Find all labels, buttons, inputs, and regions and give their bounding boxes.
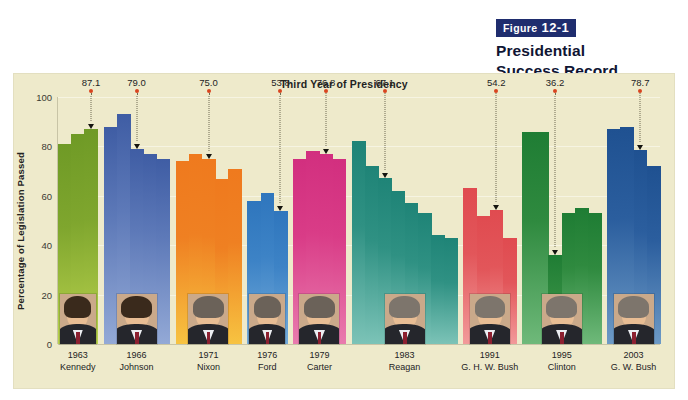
- callout-value: 36.2: [546, 77, 565, 88]
- callout-value: 54.2: [487, 77, 506, 88]
- figure-number-badge: Figure 12-1: [496, 19, 576, 37]
- callout-value: 79.0: [127, 77, 146, 88]
- callout-value: 87.1: [82, 77, 101, 88]
- x-label-president: G. W. Bush: [589, 361, 679, 373]
- gridline: [58, 344, 660, 345]
- y-tick-label: 100: [36, 92, 52, 103]
- x-axis-group-label: 2003G. W. Bush: [589, 349, 679, 373]
- x-label-president: Reagan: [360, 361, 450, 373]
- figure-title-line-1: Presidential: [496, 41, 682, 61]
- plot-area: 020406080100 87.179.075.053.876.867.154.…: [58, 97, 660, 344]
- x-label-year: 2003: [589, 349, 679, 361]
- y-tick-label: 40: [41, 240, 52, 251]
- x-axis-labels: 1963Kennedy1966Johnson1971Nixon1976Ford1…: [58, 97, 660, 344]
- y-tick-label: 20: [41, 289, 52, 300]
- y-tick-label: 80: [41, 141, 52, 152]
- figure-page: Figure 12-1 Presidential Success Record …: [0, 0, 688, 400]
- figure-caption: Figure 12-1 Presidential Success Record: [496, 18, 682, 80]
- chart-panel: Third Year of Presidency Percentage of L…: [14, 74, 674, 388]
- chart-title: Third Year of Presidency: [14, 78, 674, 90]
- callout-value: 78.7: [631, 77, 650, 88]
- x-label-year: 1979: [274, 349, 364, 361]
- y-tick-label: 60: [41, 190, 52, 201]
- x-axis-group-label: 1983Reagan: [360, 349, 450, 373]
- callout-value: 67.1: [376, 77, 395, 88]
- figure-badge-number: 12-1: [542, 20, 570, 35]
- x-label-year: 1983: [360, 349, 450, 361]
- x-label-president: Carter: [274, 361, 364, 373]
- y-tick-label: 0: [47, 339, 52, 350]
- figure-badge-prefix: Figure: [503, 22, 538, 34]
- callout-value: 53.8: [271, 77, 290, 88]
- x-axis-group-label: 1979Carter: [274, 349, 364, 373]
- y-axis-label: Percentage of Legislation Passed: [15, 152, 26, 310]
- callout-value: 75.0: [199, 77, 218, 88]
- callout-value: 76.8: [317, 77, 336, 88]
